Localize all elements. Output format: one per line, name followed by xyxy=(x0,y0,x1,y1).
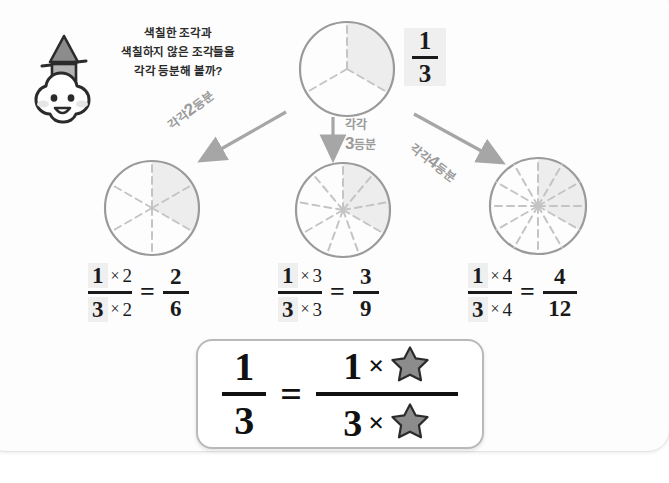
eq1-equals: = xyxy=(140,277,155,307)
general-rule-rhs: 1 × 3 × xyxy=(316,344,458,444)
eq3-den-factor: 4 xyxy=(503,300,513,319)
rule-right-den-op: × xyxy=(368,409,384,437)
equation-ninths-rhs: 3 9 xyxy=(353,265,379,320)
rule-equals: = xyxy=(280,372,302,416)
fraction-denominator: 3 xyxy=(419,61,432,86)
arrow-label-middle: 각각 3등분 xyxy=(345,118,376,154)
speech-line-1: 색칠한 조각과 xyxy=(98,24,258,43)
fraction-one-third-label: 1 3 xyxy=(404,28,446,86)
fraction-bar xyxy=(412,56,438,59)
eq2-fraction-bar xyxy=(278,291,322,294)
circle-sixths xyxy=(100,156,204,264)
eq1-den-base: 3 xyxy=(88,297,108,322)
eq2-result-den: 9 xyxy=(360,297,372,320)
fraction-numerator: 1 xyxy=(419,28,432,53)
equation-twelfths-rhs: 4 12 xyxy=(543,265,577,320)
arrow-label-middle-suffix: 등분 xyxy=(354,138,376,152)
eq1-result-bar xyxy=(163,291,189,294)
star-icon-numerator xyxy=(390,344,430,387)
eq1-num-base: 1 xyxy=(88,263,108,288)
eq3-fraction-bar xyxy=(468,291,512,294)
eq1-result-den: 6 xyxy=(170,297,182,320)
general-rule-box: 1 3 = 1 × 3 × xyxy=(196,339,484,449)
rule-right-den-base: 3 xyxy=(343,404,362,442)
rule-left-num: 1 xyxy=(234,347,254,387)
eq3-den-base: 3 xyxy=(468,297,488,322)
eq1-den-factor: 2 xyxy=(123,300,133,319)
equation-ninths-lhs: 1 × 3 3 × 3 xyxy=(278,263,322,322)
equation-twelfths-lhs: 1 × 4 3 × 4 xyxy=(468,263,512,322)
circle-twelfths xyxy=(484,152,592,264)
eq1-result-num: 2 xyxy=(170,265,182,288)
eq1-den-op: × xyxy=(111,301,120,317)
arrow-label-middle-prefix: 각각 xyxy=(345,118,376,133)
eq1-num-factor: 2 xyxy=(123,266,133,285)
circle-thirds xyxy=(294,16,400,126)
eq2-den-op: × xyxy=(301,301,310,317)
rule-left-bar xyxy=(222,392,266,396)
eq2-equals: = xyxy=(330,277,345,307)
equation-sixths: 1 × 2 3 × 2 = 2 6 xyxy=(88,263,189,322)
general-rule-equation: 1 3 = 1 × 3 × xyxy=(222,344,458,444)
speech-line-3: 각각 등분해 볼까? xyxy=(98,62,258,81)
eq3-result-bar xyxy=(543,291,577,294)
equation-ninths: 1 × 3 3 × 3 = 3 9 xyxy=(278,263,379,322)
eq3-num-op: × xyxy=(491,268,500,284)
eq2-num-base: 1 xyxy=(278,263,298,288)
eq2-result-bar xyxy=(353,291,379,294)
eq2-num-op: × xyxy=(301,268,310,284)
eq1-num-op: × xyxy=(111,268,120,284)
eq2-num-factor: 3 xyxy=(313,266,323,285)
eq3-equals: = xyxy=(520,277,535,307)
eq3-num-base: 1 xyxy=(468,263,488,288)
eq2-den-factor: 3 xyxy=(313,300,323,319)
equation-sixths-rhs: 2 6 xyxy=(163,265,189,320)
circle-ninths xyxy=(291,158,395,266)
rule-right-num-base: 1 xyxy=(343,347,362,385)
speech-text: 색칠한 조각과 색칠하지 않은 조각들을 각각 등분해 볼까? xyxy=(98,24,258,81)
eq3-result-num: 4 xyxy=(554,265,566,288)
rule-right-num-op: × xyxy=(368,352,384,380)
eq3-den-op: × xyxy=(491,301,500,317)
speech-line-2: 색칠하지 않은 조각들을 xyxy=(98,43,258,62)
eq2-result-num: 3 xyxy=(360,265,372,288)
star-icon-denominator xyxy=(390,401,430,444)
eq2-den-base: 3 xyxy=(278,297,298,322)
equation-twelfths: 1 × 4 3 × 4 = 4 12 xyxy=(468,263,577,322)
equation-sixths-lhs: 1 × 2 3 × 2 xyxy=(88,263,132,322)
general-rule-lhs: 1 3 xyxy=(222,347,266,441)
eq3-result-den: 12 xyxy=(548,297,571,320)
rule-right-bar xyxy=(316,392,458,396)
rule-left-den: 3 xyxy=(234,401,254,441)
eq1-fraction-bar xyxy=(88,291,132,294)
eq3-num-factor: 4 xyxy=(503,266,513,285)
worksheet-page: 색칠한 조각과 색칠하지 않은 조각들을 각각 등분해 볼까? 1 3 xyxy=(0,0,669,483)
